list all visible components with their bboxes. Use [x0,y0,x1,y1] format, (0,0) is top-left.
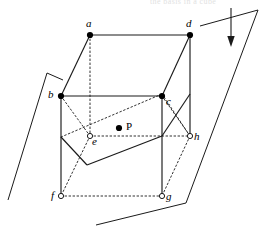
vertex-b [58,93,64,99]
edge-e-f [61,136,90,196]
edge-d-c [162,35,190,96]
vertex-label-h: h [194,131,200,142]
section-plane-edge-back-top [61,94,162,137]
vertex-label-f: f [51,190,54,201]
vertex-f [58,193,63,198]
vertex-label-a: a [86,18,92,29]
downward-arrow [227,8,234,47]
point-label-p: P [126,121,132,132]
vertex-label-g: g [166,191,172,202]
ambient-plane-top-edge [200,10,258,26]
section-plane-edge-front-bottom [87,136,162,165]
edge-h-g [162,136,190,196]
geometry-diagram [0,0,267,234]
vertex-label-d: d [186,18,192,29]
vertex-label-e: e [92,136,97,147]
vertex-label-b: b [48,89,54,100]
cube-visible-edges [61,35,190,196]
ambient-plane-left-tick [47,73,63,80]
vertex-g [159,193,164,198]
edge-a-b [61,35,90,96]
ambient-plane-right-edge [186,10,258,203]
vertex-c [159,93,165,99]
ambient-plane-bottom-edge [96,203,186,225]
ambient-plane [8,10,258,225]
downward-arrow-head [227,36,234,47]
vertex-label-c: c [166,96,171,107]
point-p-marker [116,125,122,131]
edge-b-e [61,96,90,136]
vertex-d [187,32,193,38]
vertex-h [187,133,192,138]
ambient-plane-left-edge [8,73,47,200]
cube-hidden-edges [61,35,190,196]
vertex-a [87,32,93,38]
